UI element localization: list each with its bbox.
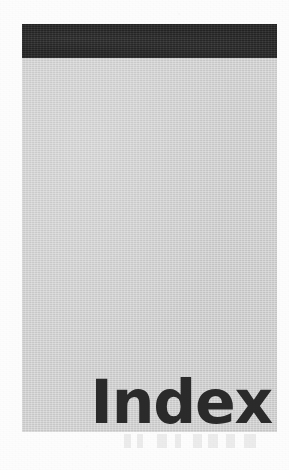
black-header-band <box>22 24 277 58</box>
page-title: Index <box>91 372 272 432</box>
scanned-book-page: Index <box>0 0 289 470</box>
